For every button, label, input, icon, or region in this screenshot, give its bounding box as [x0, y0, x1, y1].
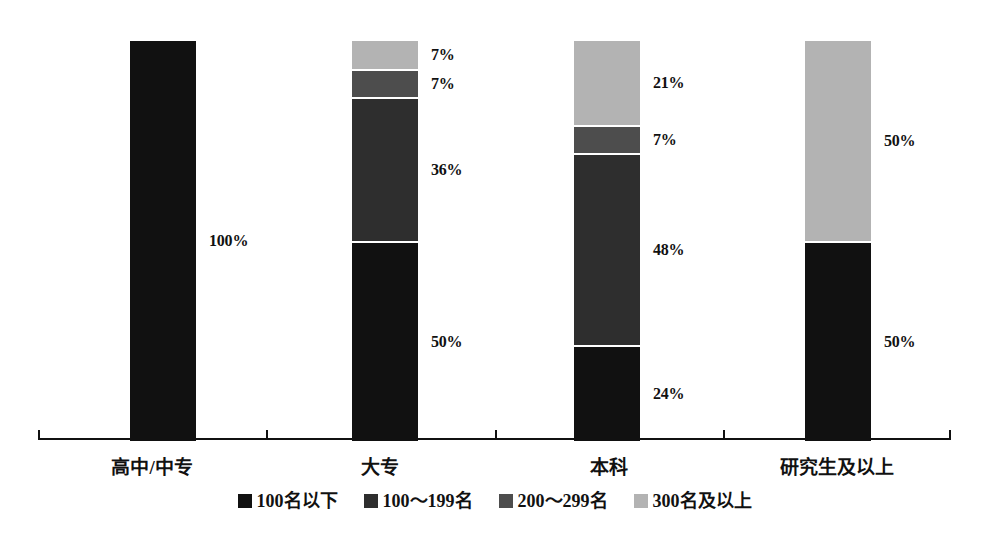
legend-swatch-icon	[499, 494, 513, 508]
bar-segment[interactable]: 50%	[805, 41, 871, 241]
legend-swatch-icon	[634, 494, 648, 508]
bar-segment[interactable]: 7%	[352, 41, 418, 69]
segment-value-label: 21%	[653, 74, 684, 92]
legend-swatch-icon	[364, 494, 378, 508]
segment-value-label: 7%	[431, 46, 455, 64]
bar-segment[interactable]: 24%	[574, 345, 640, 441]
stacked-bar[interactable]: 50%50%	[805, 41, 871, 441]
legend-item-3[interactable]: 200〜299名	[499, 492, 608, 510]
legend-label: 200〜299名	[518, 492, 608, 510]
segment-value-label: 100%	[209, 232, 248, 250]
legend-label: 300名及以上	[653, 492, 752, 510]
legend-label: 100〜199名	[383, 492, 473, 510]
segment-value-label: 50%	[884, 333, 915, 351]
x-axis-category-labels: 高中/中专大专本科研究生及以上	[38, 452, 951, 482]
x-axis-tick	[495, 430, 497, 439]
stacked-bar[interactable]: 24%48%7%21%	[574, 41, 640, 441]
segment-value-label: 48%	[653, 241, 684, 259]
bar-segment[interactable]: 7%	[352, 69, 418, 97]
legend-item-4[interactable]: 300名及以上	[634, 492, 752, 510]
segment-value-label: 50%	[884, 132, 915, 150]
x-axis	[38, 438, 951, 439]
stacked-bar[interactable]: 50%36%7%7%	[352, 41, 418, 441]
bar-segment[interactable]: 100%	[130, 41, 196, 441]
bar-segment[interactable]: 50%	[805, 241, 871, 441]
legend-swatch-icon	[238, 494, 252, 508]
segment-value-label: 7%	[431, 75, 455, 93]
bar-segment[interactable]: 36%	[352, 97, 418, 241]
chart-legend: 100名以下100〜199名200〜299名300名及以上	[0, 492, 989, 510]
plot-area: 100%50%36%7%7%24%48%7%21%50%50%	[0, 0, 989, 441]
x-axis-tick	[723, 430, 725, 439]
segment-value-label: 36%	[431, 161, 462, 179]
x-axis-left-cap	[38, 430, 40, 439]
category-label-3: 本科	[590, 452, 628, 479]
legend-item-1[interactable]: 100名以下	[238, 492, 338, 510]
stacked-bar-chart: 100%50%36%7%7%24%48%7%21%50%50% 高中/中专大专本…	[0, 0, 989, 541]
bar-segment[interactable]: 7%	[574, 125, 640, 153]
x-axis-right-cap	[949, 430, 951, 439]
category-label-1: 高中/中专	[111, 452, 192, 479]
bar-segment[interactable]: 21%	[574, 41, 640, 125]
legend-item-2[interactable]: 100〜199名	[364, 492, 473, 510]
bar-segment[interactable]: 50%	[352, 241, 418, 441]
bar-segment[interactable]: 48%	[574, 153, 640, 345]
segment-value-label: 50%	[431, 333, 462, 351]
segment-value-label: 7%	[653, 131, 677, 149]
legend-label: 100名以下	[257, 492, 338, 510]
stacked-bar[interactable]: 100%	[130, 41, 196, 441]
category-label-4: 研究生及以上	[780, 452, 894, 479]
category-label-2: 大专	[361, 452, 399, 479]
segment-value-label: 24%	[653, 385, 684, 403]
x-axis-tick	[266, 430, 268, 439]
